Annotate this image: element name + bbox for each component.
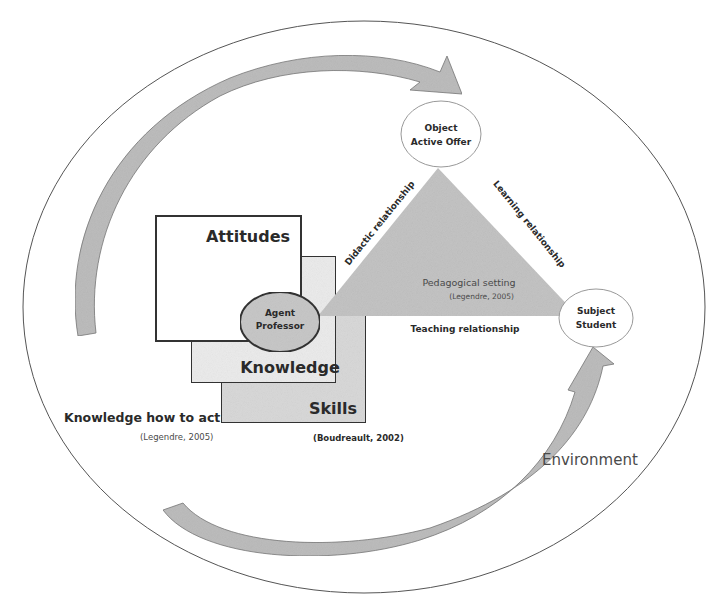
knowledge-label: Knowledge	[240, 358, 340, 377]
pedagogical-setting-citation: (Legendre, 2005)	[449, 292, 514, 301]
knowledge-how-to-act-citation: (Legendre, 2005)	[140, 432, 213, 442]
environment-label: Environment	[542, 451, 638, 469]
object-label: Object	[425, 123, 459, 133]
subject-label: Subject	[577, 306, 616, 316]
agent-label: Agent	[265, 308, 296, 318]
object-ellipse	[401, 101, 481, 167]
pedagogical-diagram: Attitudes Knowledge Skills Agent Profess…	[0, 0, 724, 611]
student-label: Student	[576, 320, 617, 330]
pedagogical-setting-label: Pedagogical setting	[422, 277, 515, 288]
subject-ellipse	[559, 289, 633, 347]
boxes-citation: (Boudreault, 2002)	[313, 433, 404, 443]
teaching-relationship-label: Teaching relationship	[411, 324, 520, 334]
attitudes-label: Attitudes	[206, 227, 290, 246]
skills-label: Skills	[309, 399, 357, 418]
knowledge-how-to-act-label: Knowledge how to act	[64, 410, 220, 425]
professor-label: Professor	[256, 321, 305, 331]
active-offer-label: Active Offer	[411, 137, 472, 147]
